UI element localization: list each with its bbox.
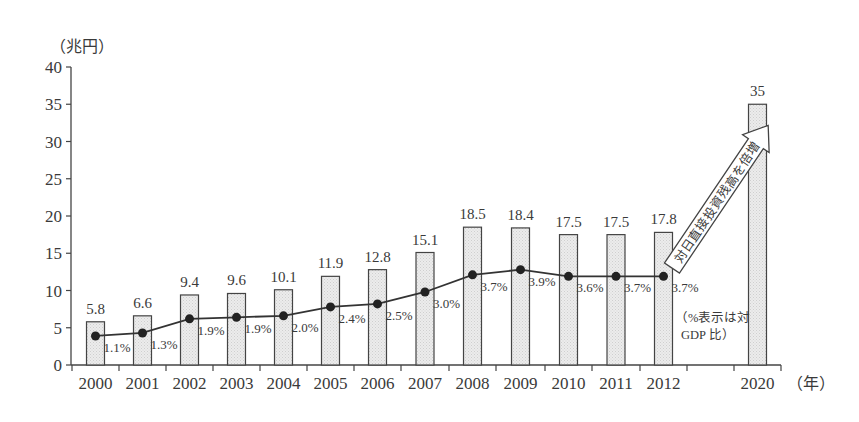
x-tick-label: 2009 xyxy=(504,374,538,393)
gdp-ratio-label: 3.0% xyxy=(433,296,460,311)
y-tick-label: 25 xyxy=(45,170,62,189)
gdp-ratio-dot xyxy=(138,328,147,337)
gdp-ratio-label: 1.9% xyxy=(245,321,272,336)
gdp-ratio-label: 1.9% xyxy=(198,323,225,338)
gdp-ratio-dot xyxy=(279,311,288,320)
y-tick-label: 20 xyxy=(45,207,62,226)
bar-value-label: 12.8 xyxy=(364,249,390,265)
x-axis-unit-label: （年） xyxy=(787,375,835,392)
bar-value-label: 18.4 xyxy=(507,207,534,223)
bar xyxy=(181,295,199,365)
bar xyxy=(607,235,625,365)
bar-value-label: 5.8 xyxy=(86,301,105,317)
gdp-ratio-dot xyxy=(421,287,430,296)
bar-value-label: 11.9 xyxy=(318,255,344,271)
bar-value-label: 9.4 xyxy=(180,274,199,290)
gdp-ratio-dot xyxy=(232,313,241,322)
bar xyxy=(655,232,673,365)
x-tick-label: 2020 xyxy=(741,374,775,393)
x-tick-label: 2010 xyxy=(552,374,586,393)
y-tick-label: 35 xyxy=(45,95,62,114)
bar xyxy=(275,290,293,365)
gdp-ratio-label: 3.6% xyxy=(577,280,604,295)
bar-value-label: 9.6 xyxy=(227,272,246,288)
gdp-ratio-label: 1.1% xyxy=(104,340,131,355)
gdp-ratio-label: 2.4% xyxy=(339,311,366,326)
x-tick-label: 2011 xyxy=(599,374,632,393)
bar xyxy=(560,235,578,365)
bar xyxy=(464,227,482,365)
y-tick-label: 5 xyxy=(54,319,63,338)
bar-value-label: 17.5 xyxy=(555,214,581,230)
x-tick-label: 2000 xyxy=(79,374,113,393)
gdp-ratio-label: 3.9% xyxy=(529,274,556,289)
bar-value-label: 15.1 xyxy=(412,232,438,248)
note-line-2: GDP 比） xyxy=(681,328,735,342)
gdp-ratio-dot xyxy=(373,299,382,308)
bar xyxy=(512,228,530,365)
gdp-ratio-dot xyxy=(91,331,100,340)
bar xyxy=(134,316,152,365)
y-tick-label: 0 xyxy=(54,356,63,375)
x-axis: 2000200120022003200420052006200720082009… xyxy=(71,365,781,393)
x-tick-label: 2006 xyxy=(361,374,395,393)
gdp-ratio-label: 3.7% xyxy=(481,279,508,294)
bar-value-label: 6.6 xyxy=(133,295,152,311)
gdp-ratio-dot xyxy=(468,270,477,279)
y-tick-label: 30 xyxy=(45,133,62,152)
bar-value-label: 17.5 xyxy=(603,214,629,230)
gdp-ratio-note: （%表示は対GDP 比） xyxy=(675,311,750,342)
bar xyxy=(416,253,434,365)
y-tick-label: 10 xyxy=(45,282,62,301)
x-tick-label: 2003 xyxy=(220,374,254,393)
bar xyxy=(228,293,246,365)
gdp-ratio-dot xyxy=(564,272,573,281)
bar-value-label: 17.8 xyxy=(650,211,676,227)
y-tick-label: 40 xyxy=(45,58,62,77)
gdp-ratio-label: 3.7% xyxy=(672,280,699,295)
note-line-1: （%表示は対 xyxy=(675,311,750,325)
x-tick-label: 2008 xyxy=(456,374,490,393)
gdp-ratio-dot xyxy=(516,265,525,274)
bar xyxy=(369,270,387,365)
gdp-ratio-dot xyxy=(659,272,668,281)
bar xyxy=(87,322,105,365)
x-tick-label: 2002 xyxy=(173,374,207,393)
gdp-ratio-label: 2.0% xyxy=(292,320,319,335)
x-tick-label: 2007 xyxy=(408,374,443,393)
gdp-ratio-dot xyxy=(326,302,335,311)
y-axis-unit-label: （兆円） xyxy=(50,38,114,55)
x-tick-label: 2004 xyxy=(267,374,302,393)
gdp-ratio-dot xyxy=(612,272,621,281)
bar xyxy=(322,276,340,365)
gdp-ratio-label: 2.5% xyxy=(386,308,413,323)
y-axis: 0510152025303540 xyxy=(45,58,71,375)
gdp-ratio-label: 3.7% xyxy=(624,280,651,295)
y-tick-label: 15 xyxy=(45,244,62,263)
bar-value-label: 10.1 xyxy=(270,269,296,285)
bar-line-chart: （兆円） 0510152025303540 200020012002200320… xyxy=(0,0,859,422)
gdp-ratio-label: 1.3% xyxy=(151,337,178,352)
gdp-ratio-dot xyxy=(185,314,194,323)
x-tick-label: 2012 xyxy=(647,374,681,393)
x-tick-label: 2005 xyxy=(314,374,348,393)
bar-value-label: 18.5 xyxy=(459,206,485,222)
bar-value-label: 35 xyxy=(750,83,765,99)
x-tick-label: 2001 xyxy=(126,374,160,393)
